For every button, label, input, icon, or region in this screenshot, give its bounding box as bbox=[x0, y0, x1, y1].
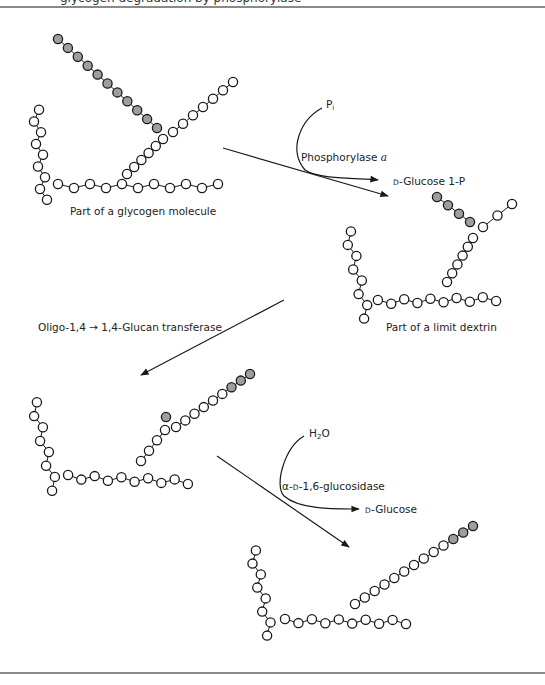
glucose-unit-released bbox=[123, 97, 132, 106]
glucose-unit bbox=[334, 615, 343, 624]
glucose-unit bbox=[130, 162, 139, 171]
phosphorylase-cosubstrate-curve bbox=[297, 108, 378, 180]
glucose-unit bbox=[465, 297, 474, 306]
glucose-unit-released bbox=[468, 521, 477, 530]
glucose-unit bbox=[354, 290, 363, 299]
glycogen-degradation-diagram: glycogen degradation by phosphorylase Pa… bbox=[0, 0, 545, 685]
glucose-unit-released bbox=[227, 383, 236, 392]
chain-diagonal-inner bbox=[136, 425, 169, 465]
glucose-unit bbox=[363, 301, 372, 310]
diagram-canvas bbox=[0, 0, 545, 685]
glucose-unit bbox=[492, 296, 501, 305]
glucose-unit-released bbox=[133, 106, 142, 115]
glucose-unit-released bbox=[432, 192, 441, 201]
glucose-unit bbox=[507, 199, 516, 208]
glucose-unit bbox=[117, 179, 126, 188]
glucose-unit bbox=[493, 211, 502, 220]
glucose-unit bbox=[350, 599, 359, 608]
glucose-unit bbox=[144, 474, 153, 483]
glucosidase-cosubstrate-curve bbox=[280, 436, 359, 509]
glucose-unit bbox=[349, 265, 358, 274]
glucose-unit bbox=[468, 233, 477, 242]
glucose-unit bbox=[373, 295, 382, 304]
chain-diagonal-inner bbox=[122, 134, 167, 178]
glucose-unit bbox=[256, 570, 265, 579]
glucose-unit bbox=[122, 169, 131, 178]
glucose-unit bbox=[165, 183, 174, 192]
glucose-unit bbox=[348, 619, 357, 628]
phosphate-subscript: i bbox=[332, 104, 334, 112]
glucose-unit bbox=[53, 179, 62, 188]
glucose-unit-released bbox=[73, 52, 82, 61]
glucose-unit bbox=[448, 269, 457, 278]
glucose-unit bbox=[419, 554, 428, 563]
glycogen-molecule-label: Part of a glycogen molecule bbox=[70, 206, 216, 217]
glucose-unit bbox=[280, 614, 289, 623]
glucose-unit bbox=[152, 436, 161, 445]
glucose-unit bbox=[101, 183, 110, 192]
chain-main-chain bbox=[64, 470, 193, 488]
glucose-unit-released bbox=[143, 115, 152, 124]
glucose-unit bbox=[370, 586, 379, 595]
glucose-unit bbox=[50, 472, 59, 481]
glucose-unit bbox=[199, 403, 208, 412]
glucose-unit-released bbox=[465, 217, 474, 226]
glucose-unit bbox=[188, 111, 197, 120]
glucose-unit-released bbox=[83, 61, 92, 70]
transferase-arrow bbox=[141, 300, 284, 375]
enzyme-transferase-label: Oligo-1,4 → 1,4-Glucan transferase bbox=[38, 322, 222, 333]
glucose-unit bbox=[157, 478, 166, 487]
chain-single-stub bbox=[161, 412, 170, 421]
glucose-unit bbox=[144, 446, 153, 455]
glucose-unit bbox=[40, 173, 49, 182]
glucose-unit bbox=[228, 77, 237, 86]
glucose-unit bbox=[168, 127, 177, 136]
chain-released-chain bbox=[53, 34, 161, 132]
glucose-unit-released bbox=[449, 534, 458, 543]
glucose-unit bbox=[321, 619, 330, 628]
glucose-unit bbox=[390, 573, 399, 582]
chain-vertical-branch bbox=[248, 546, 275, 640]
glucose-unit bbox=[387, 299, 396, 308]
water-label: H2O bbox=[309, 428, 330, 441]
glucose-unit bbox=[357, 276, 366, 285]
glucose-unit bbox=[307, 615, 316, 624]
molecule-limit-dextrin bbox=[343, 192, 516, 323]
glucose-unit bbox=[130, 477, 139, 486]
glucose-unit bbox=[32, 398, 41, 407]
chain-main-chain bbox=[373, 293, 500, 309]
glucose-unit bbox=[42, 195, 51, 204]
glucose-unit bbox=[36, 128, 45, 137]
product-name: -Glucose bbox=[371, 503, 417, 515]
glucose-unit bbox=[69, 183, 78, 192]
glucose-unit bbox=[409, 560, 418, 569]
glucose-unit bbox=[439, 541, 448, 550]
chain-vertical-branch bbox=[29, 398, 59, 496]
glucose-unit bbox=[90, 472, 99, 481]
glucose-unit-released bbox=[152, 123, 161, 132]
glucose-unit bbox=[178, 119, 187, 128]
chain-vertical-branch bbox=[343, 227, 372, 323]
glucose-unit bbox=[44, 447, 53, 456]
molecule-transferred bbox=[29, 369, 254, 495]
glucose-unit bbox=[458, 251, 467, 260]
glucose-unit bbox=[181, 416, 190, 425]
glucose-unit bbox=[34, 105, 43, 114]
glucose-unit bbox=[352, 251, 361, 260]
glucose-unit bbox=[170, 475, 179, 484]
glucose-unit bbox=[197, 183, 206, 192]
glucose-unit bbox=[401, 619, 410, 628]
glucose-unit-released bbox=[103, 79, 112, 88]
glucose-unit bbox=[136, 456, 145, 465]
product-name: -Glucose 1-P bbox=[399, 175, 465, 187]
glucose-unit bbox=[375, 619, 384, 628]
glucose-unit bbox=[64, 470, 73, 479]
glucose-unit bbox=[38, 150, 47, 159]
chain-diagonal-outer bbox=[168, 77, 237, 136]
molecules bbox=[29, 34, 516, 640]
glucose-unit-released bbox=[113, 88, 122, 97]
glucose-unit bbox=[400, 295, 409, 304]
glucose-unit bbox=[248, 559, 257, 568]
glucose-unit bbox=[103, 476, 112, 485]
glucose-unit bbox=[36, 436, 45, 445]
